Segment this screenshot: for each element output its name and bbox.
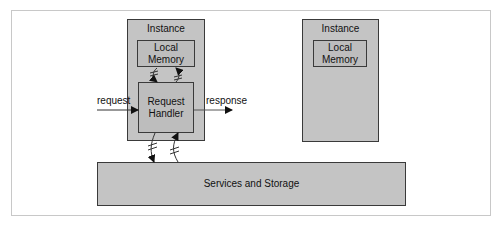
async-break-marks-2 bbox=[148, 143, 179, 154]
async-break-marks bbox=[150, 71, 182, 80]
arrows-layer bbox=[0, 0, 503, 225]
